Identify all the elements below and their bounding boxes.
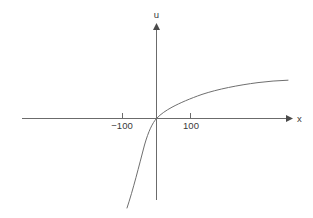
- plot-figure: −100 100 x u: [0, 0, 313, 218]
- x-axis-arrowhead: [286, 115, 293, 122]
- y-axis-arrowhead: [153, 23, 160, 30]
- y-axis-label: u: [154, 9, 159, 20]
- function-curve: [127, 80, 288, 208]
- x-tick-label-100: 100: [183, 120, 199, 131]
- x-axis-label: x: [297, 113, 302, 124]
- x-tick-label-minus-100: −100: [111, 120, 132, 131]
- coordinate-plot: −100 100 x u: [0, 0, 313, 218]
